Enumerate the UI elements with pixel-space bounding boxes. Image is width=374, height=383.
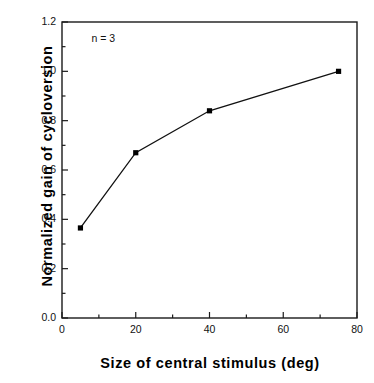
data-series-layer (78, 69, 341, 231)
data-markers (78, 69, 341, 231)
x-tick-label: 40 (195, 323, 225, 335)
y-tick-label: 0.4 (30, 212, 56, 224)
data-line (80, 71, 338, 228)
y-tick-label: 1.2 (30, 15, 56, 27)
axes-frame (62, 22, 357, 318)
x-tick-label: 80 (342, 323, 372, 335)
data-point-marker (133, 150, 138, 155)
x-tick-label: 0 (47, 323, 77, 335)
plot-frame (62, 22, 357, 318)
y-tick-label: 0.6 (30, 163, 56, 175)
data-point-marker (78, 225, 83, 230)
y-tick-label: 0.8 (30, 114, 56, 126)
data-point-marker (336, 69, 341, 74)
x-tick-label: 60 (268, 323, 298, 335)
y-tick-label: 0.0 (30, 311, 56, 323)
x-axis-title: Size of central stimulus (deg) (62, 355, 358, 371)
tick-marks (62, 22, 357, 318)
data-point-marker (207, 108, 212, 113)
sample-size-annotation: n = 3 (91, 32, 115, 44)
chart-figure: Normalized gain of cycloversion Size of … (0, 0, 374, 383)
x-axis-tick-labels: 020406080 (0, 323, 374, 343)
y-tick-label: 1.0 (30, 64, 56, 76)
y-tick-label: 0.2 (30, 262, 56, 274)
x-tick-label: 20 (121, 323, 151, 335)
